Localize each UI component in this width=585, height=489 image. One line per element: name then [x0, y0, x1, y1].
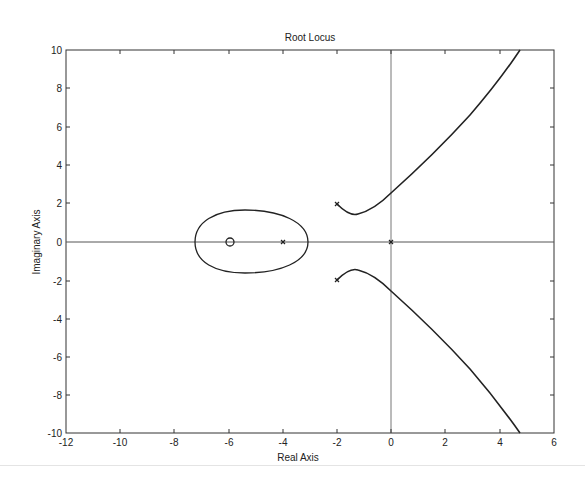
- svg-text:0: 0: [56, 237, 62, 248]
- svg-text:-6: -6: [53, 352, 62, 363]
- svg-text:2: 2: [442, 437, 448, 448]
- svg-text:4: 4: [497, 437, 503, 448]
- pole-marker-lower: [335, 278, 339, 282]
- lower-branch: [337, 269, 520, 433]
- divider: [0, 465, 585, 466]
- svg-text:-10: -10: [113, 437, 128, 448]
- svg-text:-2: -2: [53, 276, 62, 287]
- chart-title: Root Locus: [285, 32, 336, 43]
- svg-text:-8: -8: [53, 390, 62, 401]
- svg-text:2: 2: [56, 198, 62, 209]
- root-locus-chart: Root Locus -12 -10 -8 -6 -4 -2 0 2 4: [0, 0, 585, 489]
- svg-text:6: 6: [56, 122, 62, 133]
- svg-text:-8: -8: [170, 437, 179, 448]
- svg-text:-6: -6: [225, 437, 234, 448]
- svg-text:8: 8: [56, 83, 62, 94]
- svg-text:10: 10: [51, 45, 63, 56]
- x-axis-title: Real Axis: [277, 452, 319, 463]
- svg-text:-2: -2: [333, 437, 342, 448]
- y-axis-title: Imaginary Axis: [31, 209, 42, 274]
- svg-text:-4: -4: [279, 437, 288, 448]
- svg-text:-10: -10: [48, 428, 63, 439]
- upper-branch: [337, 50, 520, 215]
- svg-text:4: 4: [56, 160, 62, 171]
- x-tick-labels: -12 -10 -8 -6 -4 -2 0 2 4 6: [59, 437, 557, 448]
- svg-text:-4: -4: [53, 314, 62, 325]
- svg-text:6: 6: [551, 437, 557, 448]
- pole-marker-upper: [335, 202, 339, 206]
- svg-text:0: 0: [388, 437, 394, 448]
- y-tick-labels: 10 8 6 4 2 0 -2 -4 -6 -8 -10: [48, 45, 63, 439]
